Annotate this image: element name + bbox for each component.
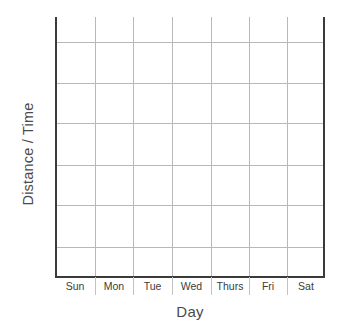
plot-right-edge bbox=[323, 17, 325, 278]
chart-container: Sun Mon Tue Wed Thurs Fri Sat Day Distan… bbox=[0, 0, 347, 335]
x-tick-label-thurs: Thurs bbox=[211, 279, 249, 294]
gridline-horizontal bbox=[55, 123, 325, 124]
x-tick-label-wed: Wed bbox=[172, 279, 211, 294]
plot-area bbox=[55, 17, 325, 277]
gridline-vertical bbox=[211, 17, 212, 277]
y-axis-title: Distance / Time bbox=[20, 74, 36, 234]
gridline-vertical bbox=[95, 17, 96, 277]
gridline-vertical bbox=[287, 17, 288, 277]
gridline-horizontal bbox=[55, 83, 325, 84]
gridline-horizontal bbox=[55, 247, 325, 248]
x-tick-label-fri: Fri bbox=[249, 279, 287, 294]
gridline-horizontal bbox=[55, 42, 325, 43]
gridline-horizontal bbox=[55, 205, 325, 206]
x-tick-label-tue: Tue bbox=[133, 279, 172, 294]
x-tick-label-sun: Sun bbox=[55, 279, 95, 294]
x-tick-label-mon: Mon bbox=[95, 279, 133, 294]
gridline-vertical bbox=[172, 17, 173, 277]
y-axis-line bbox=[55, 17, 57, 278]
gridline-vertical bbox=[133, 17, 134, 277]
x-tick-label-sat: Sat bbox=[287, 279, 325, 294]
x-axis-title: Day bbox=[55, 303, 325, 320]
gridline-horizontal bbox=[55, 165, 325, 166]
gridline-vertical bbox=[249, 17, 250, 277]
